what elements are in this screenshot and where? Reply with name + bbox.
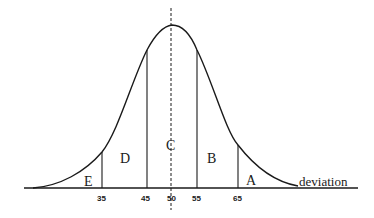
region-label-b: B <box>207 151 216 166</box>
tick-label-55: 55 <box>192 194 201 203</box>
normal-distribution-diagram: E D C B A deviation 35 45 50 55 65 <box>0 0 374 218</box>
region-label-a: A <box>246 173 257 188</box>
tick-label-35: 35 <box>97 194 106 203</box>
tick-label-65: 65 <box>233 194 242 203</box>
axis-label: deviation <box>299 174 348 189</box>
region-label-c: C <box>166 138 175 153</box>
tick-label-45: 45 <box>141 194 150 203</box>
bell-curve <box>33 25 298 188</box>
tick-label-50: 50 <box>167 194 176 203</box>
region-label-d: D <box>120 151 130 166</box>
region-label-e: E <box>84 174 93 189</box>
